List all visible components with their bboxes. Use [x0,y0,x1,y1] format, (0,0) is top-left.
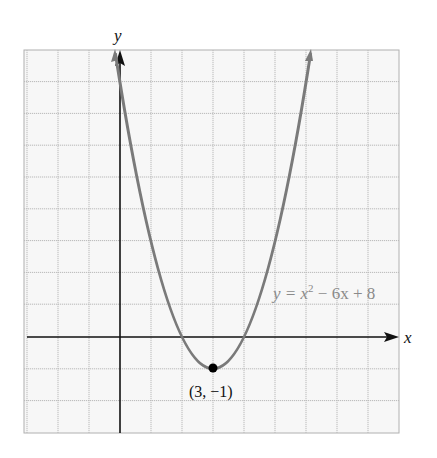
vertex-point [209,364,218,373]
y-axis-label: y [112,26,122,45]
parabola-graph: y x y = x2 − 6x + 8 (3, −1) [0,0,437,458]
vertex-label: (3, −1) [189,383,233,401]
equation-label: y = x2 − 6x + 8 [271,282,375,303]
grid-frame [24,50,399,433]
x-axis-label: x [403,328,412,347]
